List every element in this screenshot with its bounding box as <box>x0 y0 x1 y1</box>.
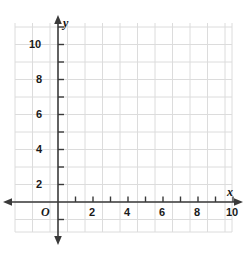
coordinate-plane-figure: O y x 2 4 6 8 10 10 8 6 4 2 <box>0 0 249 254</box>
x-tick-label-8: 8 <box>194 207 200 218</box>
y-axis-line <box>54 15 62 245</box>
x-axis-label: x <box>227 186 233 198</box>
y-axis-label: y <box>63 17 68 29</box>
x-tick-label-2: 2 <box>89 207 95 218</box>
x-axis-tick-marks <box>76 197 234 203</box>
y-axis-tick-marks <box>58 27 64 220</box>
x-tick-label-10: 10 <box>226 207 238 218</box>
x-tick-label-4: 4 <box>124 207 130 218</box>
y-tick-label-4: 4 <box>36 144 42 155</box>
grid-lines-vertical <box>15 23 232 232</box>
y-tick-label-2: 2 <box>36 179 42 190</box>
y-tick-label-10: 10 <box>29 39 41 50</box>
y-tick-label-6: 6 <box>36 109 42 120</box>
origin-label: O <box>41 206 50 218</box>
y-tick-label-8: 8 <box>36 74 42 85</box>
x-tick-label-6: 6 <box>159 207 165 218</box>
